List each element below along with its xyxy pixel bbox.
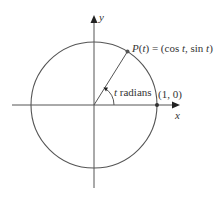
- point-p-label-3: , sin: [185, 42, 206, 54]
- point-p-label: P(t) = (cos t, sin t): [131, 42, 213, 55]
- point-p-label-4: ): [209, 42, 213, 55]
- unit-circle-diagram: y x P(t) = (cos t, sin t) t radians (1, …: [0, 0, 224, 200]
- y-axis-arrow-icon: [91, 15, 98, 23]
- x-axis-arrow-icon: [172, 102, 180, 109]
- angle-label-unit: radians: [117, 86, 152, 98]
- y-axis-label: y: [98, 11, 104, 23]
- point-p-label-2: ) = (cos: [145, 42, 181, 55]
- angle-label: t radians: [114, 86, 152, 98]
- point-p-dot: [126, 50, 130, 54]
- point-1-0-dot: [155, 103, 159, 107]
- x-axis-label: x: [174, 109, 180, 121]
- point-1-0-label: (1, 0): [158, 88, 182, 101]
